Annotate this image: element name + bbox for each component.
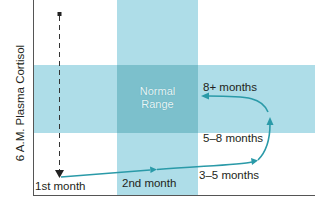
stage-label-5-8-months: 5–8 months <box>203 133 263 145</box>
cortisol-recovery-diagram: 6 A.M. Plasma Cortisol Normal Range 1st … <box>0 0 326 207</box>
arrow-5-8-to-normal <box>208 96 268 112</box>
stage-label-1st-month: 1st month <box>35 181 86 193</box>
stage-label-2nd-month: 2nd month <box>122 178 176 190</box>
arrowhead-icon <box>201 93 209 100</box>
start-square-marker <box>58 12 62 16</box>
arrowhead-icon <box>150 167 157 174</box>
arrowhead-icon <box>267 117 274 125</box>
arrowhead-icon <box>251 158 258 165</box>
normal-range-label: Normal Range <box>117 85 198 110</box>
arrow-1st-to-2nd <box>61 170 150 177</box>
stage-label-8-plus-months: 8+ months <box>203 82 257 94</box>
stage-label-3-5-months: 3–5 months <box>199 170 259 182</box>
y-axis-label: 6 A.M. Plasma Cortisol <box>14 41 26 165</box>
